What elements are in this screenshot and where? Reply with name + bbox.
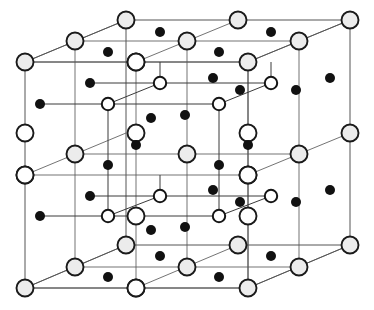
open-sphere — [128, 208, 145, 225]
filled-dot — [155, 27, 165, 37]
open-sphere — [128, 280, 145, 297]
filled-dot — [325, 185, 335, 195]
filled-dot — [266, 27, 276, 37]
filled-dot — [180, 110, 190, 120]
open-sphere — [128, 54, 145, 71]
filled-dot — [214, 160, 224, 170]
lattice-diagram: Crystal lattice unit cell diagram — [0, 0, 374, 310]
filled-dot — [85, 191, 95, 201]
large-shaded-sphere — [342, 12, 359, 29]
filled-dot — [208, 185, 218, 195]
large-shaded-sphere — [118, 12, 135, 29]
open-sphere — [240, 125, 257, 142]
large-shaded-sphere — [17, 280, 34, 297]
filled-dot — [146, 113, 156, 123]
large-shaded-sphere — [179, 33, 196, 50]
filled-dot — [180, 222, 190, 232]
large-shaded-sphere — [179, 146, 196, 163]
filled-dot — [208, 73, 218, 83]
filled-dot — [146, 225, 156, 235]
filled-dot — [266, 251, 276, 261]
large-shaded-sphere — [291, 259, 308, 276]
filled-dot — [85, 78, 95, 88]
large-shaded-sphere — [17, 54, 34, 71]
large-shaded-sphere — [179, 259, 196, 276]
filled-dot — [235, 85, 245, 95]
small-open-circle — [154, 77, 166, 89]
large-shaded-sphere — [291, 33, 308, 50]
filled-dot — [103, 47, 113, 57]
small-open-circle — [265, 77, 277, 89]
filled-dot — [235, 197, 245, 207]
large-shaded-sphere — [67, 33, 84, 50]
large-shaded-sphere — [118, 237, 135, 254]
filled-dot — [214, 47, 224, 57]
large-shaded-sphere — [67, 146, 84, 163]
filled-dot — [103, 160, 113, 170]
large-shaded-sphere — [240, 54, 257, 71]
large-shaded-sphere — [67, 259, 84, 276]
filled-dot — [291, 85, 301, 95]
crystal-lattice-figure: Crystal lattice unit cell diagram — [0, 0, 374, 310]
small-open-circle — [213, 98, 225, 110]
large-shaded-sphere — [342, 237, 359, 254]
large-shaded-sphere — [342, 125, 359, 142]
open-sphere — [128, 125, 145, 142]
filled-dot — [291, 197, 301, 207]
filled-dot — [103, 272, 113, 282]
filled-dot — [35, 211, 45, 221]
large-shaded-sphere — [240, 280, 257, 297]
open-sphere — [17, 125, 34, 142]
small-open-circle — [154, 190, 166, 202]
open-sphere — [17, 167, 34, 184]
filled-dot — [131, 140, 141, 150]
small-open-circle — [265, 190, 277, 202]
large-shaded-sphere — [230, 12, 247, 29]
large-shaded-sphere — [291, 146, 308, 163]
filled-dot — [155, 251, 165, 261]
small-open-circle — [102, 98, 114, 110]
open-sphere — [240, 167, 257, 184]
filled-dot — [214, 272, 224, 282]
small-open-circle — [213, 210, 225, 222]
filled-dot — [325, 73, 335, 83]
filled-dot — [35, 99, 45, 109]
filled-dot — [243, 140, 253, 150]
large-shaded-sphere — [230, 237, 247, 254]
small-open-circle — [102, 210, 114, 222]
open-sphere — [240, 208, 257, 225]
